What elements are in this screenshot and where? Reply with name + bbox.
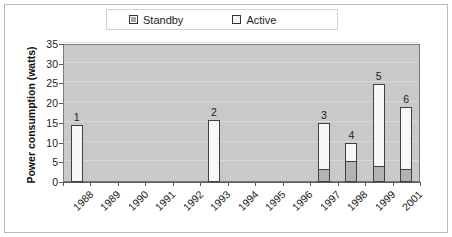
x-tick-mark [118,182,119,186]
bar-data-label: 4 [348,129,354,141]
bar-1997[interactable] [318,123,330,182]
x-tick-label: 1993 [208,188,233,213]
bar-data-label: 1 [74,111,80,123]
x-tick-mark [283,182,284,186]
bar-segment-active [72,126,82,181]
bar-slot [118,44,145,182]
bar-segment-standby [401,170,411,181]
power-consumption-chart: Standby Active Power consumption (watts)… [0,0,452,237]
x-tick-mark [393,182,394,186]
x-axis-labels: 1988198919901991199219931994199519961997… [63,188,420,234]
x-tick-mark [310,182,311,186]
bar-data-label: 3 [321,109,327,121]
bar-1999[interactable] [373,84,385,182]
bar-slot [173,44,200,182]
bar-data-label: 6 [403,93,409,105]
bar-segment-active [346,144,356,161]
bar-1988[interactable] [71,125,83,182]
x-tick-label: 1988 [70,188,95,213]
bar-series-layer: 123456 [63,44,420,182]
x-tick-mark [90,182,91,186]
bar-slot: 4 [338,44,365,182]
legend-swatch-active-icon [232,15,241,24]
x-axis-line [63,182,420,183]
x-tick-label: 1992 [180,188,205,213]
y-tick-label: 20 [32,97,58,109]
bar-slot [145,44,172,182]
y-tick-label: 10 [32,137,58,149]
bar-data-label: 5 [376,70,382,82]
legend-label-standby: Standby [143,14,183,26]
bar-1993[interactable] [208,120,220,182]
chart-legend: Standby Active [106,9,338,30]
x-tick-mark [255,182,256,186]
bar-slot: 2 [200,44,227,182]
y-tick-label: 0 [32,176,58,188]
x-tick-mark [173,182,174,186]
x-tick-mark [200,182,201,186]
bar-slot: 1 [63,44,90,182]
legend-item-standby: Standby [129,14,183,26]
bar-slot: 6 [393,44,420,182]
bar-segment-active [401,108,411,170]
x-tick-label: 1998 [345,188,370,213]
bar-data-label: 2 [211,106,217,118]
bar-1998[interactable] [345,143,357,182]
bar-slot [228,44,255,182]
bar-segment-standby [346,162,356,181]
x-tick-mark [228,182,229,186]
x-tick-label: 1995 [262,188,287,213]
bar-slot: 5 [365,44,392,182]
bar-slot: 3 [310,44,337,182]
bar-segment-active [319,124,329,170]
bar-segment-active [209,121,219,181]
x-tick-label: 1994 [235,188,260,213]
gridline [64,42,419,43]
bar-slot [90,44,117,182]
y-tick-label: 5 [32,156,58,168]
legend-item-active: Active [232,14,276,26]
y-tick-label: 25 [32,77,58,89]
bar-slot [283,44,310,182]
y-tick-label: 35 [32,38,58,50]
x-tick-label: 1990 [125,188,150,213]
x-tick-mark [338,182,339,186]
x-tick-mark [145,182,146,186]
y-tick-label: 30 [32,58,58,70]
bar-segment-active [374,85,384,167]
x-tick-label: 1989 [98,188,123,213]
bar-slot [255,44,282,182]
y-tick-label: 15 [32,117,58,129]
bar-segment-standby [374,167,384,181]
legend-label-active: Active [246,14,276,26]
x-tick-label: 1997 [317,188,342,213]
legend-swatch-standby-icon [129,15,138,24]
bar-segment-standby [319,170,329,181]
x-tick-label: 1999 [372,188,397,213]
x-tick-label: 1996 [290,188,315,213]
x-tick-label: 1991 [153,188,178,213]
x-tick-mark [420,182,421,186]
x-tick-mark [365,182,366,186]
bar-2001[interactable] [400,107,412,182]
x-tick-mark [63,182,64,186]
